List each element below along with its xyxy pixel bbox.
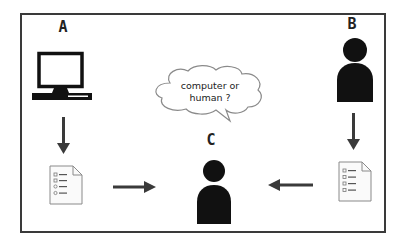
arrow-down-b-icon: [347, 113, 360, 150]
thought-line-1: computer or: [168, 80, 252, 92]
node-a-label: A: [58, 20, 67, 35]
document-checklist-icon: [49, 165, 83, 205]
node-b-label: B: [347, 17, 356, 32]
arrow-left-icon: [268, 179, 313, 191]
document-checklist-icon: [338, 161, 372, 202]
person-b-icon: [337, 38, 373, 102]
arrow-down-a-icon: [57, 117, 70, 154]
thought-bubble-text: computer or human ?: [168, 80, 252, 104]
person-c-icon: [197, 160, 231, 224]
arrow-right-icon: [113, 181, 156, 193]
computer-icon: [32, 52, 92, 100]
node-c-label: C: [206, 133, 215, 148]
thought-line-2: human ?: [168, 92, 252, 104]
